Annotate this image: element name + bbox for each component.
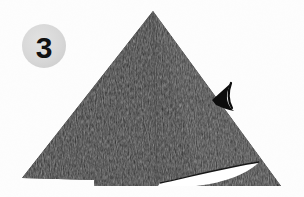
origami-step-figure: 3 bbox=[0, 0, 304, 197]
step-badge-label: 3 bbox=[36, 31, 53, 64]
figure-canvas: 3 bbox=[0, 0, 304, 197]
step-badge: 3 bbox=[22, 24, 66, 68]
